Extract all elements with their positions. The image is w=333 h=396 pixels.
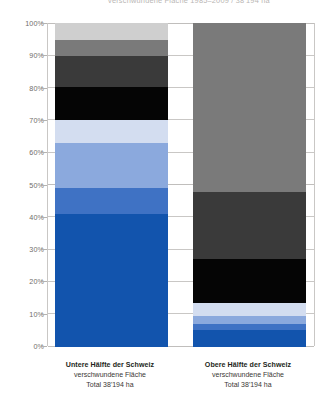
chart-title-clipped: verschwundene Fläche 1985–2009 / 38'194 … <box>0 0 333 11</box>
y-tick-label-40: 40% <box>4 213 44 222</box>
bar-untere-haelfte-segment-8[interactable] <box>55 23 168 40</box>
chart-root: verschwundene Fläche 1985–2009 / 38'194 … <box>0 0 333 396</box>
plot-area <box>47 23 315 346</box>
y-tick-mark-30 <box>42 249 47 250</box>
y-tick-label-10: 10% <box>4 310 44 319</box>
y-tick-mark-80 <box>42 88 47 89</box>
y-tick-mark-70 <box>42 120 47 121</box>
bar-untere-haelfte-segment-5[interactable] <box>55 86 168 121</box>
bar-untere-haelfte-segment-3[interactable] <box>55 143 168 189</box>
bar-untere-haelfte-segment-6[interactable] <box>55 55 168 86</box>
y-tick-mark-40 <box>42 217 47 218</box>
bar-obere-haelfte-segment-5[interactable] <box>193 259 306 303</box>
bar-obere-haelfte-segment-2[interactable] <box>193 323 306 330</box>
column-title-untere: Untere Hälfte der Schweiz <box>35 361 185 370</box>
bar-obere-haelfte-segment-7[interactable] <box>193 23 306 192</box>
column-caption-untere: Untere Hälfte der Schweiz verschwundene … <box>35 361 185 389</box>
bar-untere-haelfte-segment-4[interactable] <box>55 120 168 143</box>
bar-untere-haelfte-segment-1[interactable] <box>55 214 168 347</box>
y-tick-label-90: 90% <box>4 51 44 60</box>
column-caption-obere: Obere Hälfte der Schweiz verschwundene F… <box>173 361 323 389</box>
column-subtitle-untere: verschwundene Fläche <box>35 370 185 379</box>
y-tick-mark-20 <box>42 281 47 282</box>
y-tick-mark-50 <box>42 185 47 186</box>
chart-title-text: verschwundene Fläche 1985–2009 / 38'194 … <box>108 0 270 5</box>
bar-obere-haelfte-segment-1[interactable] <box>193 330 306 347</box>
y-tick-label-60: 60% <box>4 148 44 157</box>
column-title-obere: Obere Hälfte der Schweiz <box>173 361 323 370</box>
y-tick-label-30: 30% <box>4 245 44 254</box>
bar-untere-haelfte-segment-2[interactable] <box>55 188 168 214</box>
y-tick-label-0: 0% <box>4 342 44 351</box>
y-tick-mark-0 <box>42 346 47 347</box>
bar-obere-haelfte-segment-4[interactable] <box>193 302 306 316</box>
column-total-untere: Total 38'194 ha <box>35 380 185 389</box>
y-tick-label-100: 100% <box>4 19 44 28</box>
bar-untere-haelfte[interactable] <box>55 23 168 346</box>
y-tick-label-80: 80% <box>4 84 44 93</box>
bar-untere-haelfte-segment-7[interactable] <box>55 39 168 56</box>
column-total-obere: Total 38'194 ha <box>173 380 323 389</box>
column-subtitle-obere: verschwundene Fläche <box>173 370 323 379</box>
bar-obere-haelfte[interactable] <box>193 23 306 346</box>
y-tick-label-50: 50% <box>4 181 44 190</box>
bar-obere-haelfte-segment-3[interactable] <box>193 315 306 324</box>
y-tick-label-20: 20% <box>4 277 44 286</box>
bar-obere-haelfte-segment-6[interactable] <box>193 191 306 259</box>
y-tick-mark-60 <box>42 152 47 153</box>
y-tick-label-70: 70% <box>4 116 44 125</box>
y-tick-mark-100 <box>42 23 47 24</box>
y-tick-mark-90 <box>42 55 47 56</box>
y-tick-mark-10 <box>42 314 47 315</box>
